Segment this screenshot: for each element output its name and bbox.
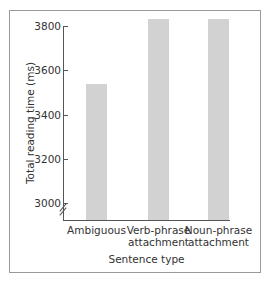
y-axis [63, 26, 64, 220]
y-tick [63, 203, 68, 204]
bar-noun-phrase-attachment [208, 19, 229, 220]
bar-ambiguous [86, 84, 107, 220]
x-axis [63, 220, 230, 221]
y-tick [63, 115, 68, 116]
bar-verb-phrase-attachment [148, 19, 169, 220]
y-tick-label: 3600 [34, 64, 61, 76]
y-tick-label: 3000 [34, 197, 61, 209]
y-tick [63, 159, 68, 160]
x-category-label: Noun-phraseattachment [179, 224, 259, 248]
y-axis-label: Total reading time (ms) [24, 62, 36, 184]
y-tick-label: 3400 [34, 109, 61, 121]
y-tick-label: 3800 [34, 20, 61, 32]
x-axis-label: Sentence type [63, 253, 230, 265]
y-tick [63, 70, 68, 71]
y-tick-label: 3200 [34, 153, 61, 165]
y-tick [63, 26, 68, 27]
